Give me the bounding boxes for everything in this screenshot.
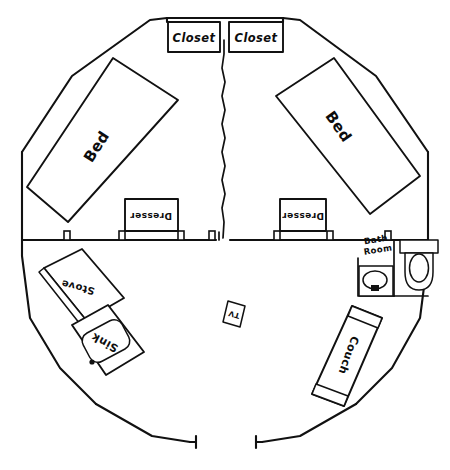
closet-left[interactable]: Closet — [168, 22, 220, 52]
couch[interactable]: Couch — [312, 306, 382, 406]
closet-left-label: Closet — [173, 31, 216, 45]
floor-plan-canvas: Closet Closet Bed Bed Dresser Dresser Ba… — [0, 0, 450, 470]
bed-left[interactable]: Bed — [27, 58, 178, 222]
entry-doorway[interactable] — [190, 436, 262, 448]
dresser-right[interactable]: Dresser — [280, 199, 326, 231]
floor-plan-drawing: Closet Closet Bed Bed Dresser Dresser Ba… — [0, 0, 450, 470]
bathroom[interactable]: Bath Room — [358, 233, 438, 296]
door-posts-left — [64, 231, 215, 240]
toilet-icon — [400, 240, 438, 290]
bathroom-sink-icon — [359, 266, 393, 296]
dresser-left-label: Dresser — [130, 211, 172, 221]
tv[interactable]: TV — [223, 301, 245, 327]
closet-right[interactable]: Closet — [229, 22, 283, 52]
dresser-left[interactable]: Dresser — [125, 199, 178, 231]
dresser-right-label: Dresser — [282, 211, 324, 221]
closet-right-label: Closet — [235, 31, 278, 45]
bed-right[interactable]: Bed — [276, 58, 420, 214]
bedroom-divider-wall — [219, 40, 225, 240]
sink-faucet-icon — [89, 359, 94, 364]
